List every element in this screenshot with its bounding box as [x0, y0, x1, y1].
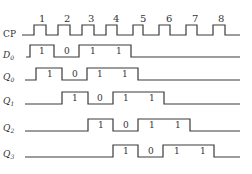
pulse-number-2: 2	[64, 13, 70, 24]
d0-label: D0	[2, 50, 14, 61]
q3-bit-2: 0	[148, 146, 154, 156]
pulse-number-1: 1	[39, 13, 45, 24]
q1-bit-1: 1	[72, 93, 78, 103]
cp-label: CP	[3, 29, 16, 39]
q1-bit-4: 1	[149, 93, 155, 103]
q0-bit-2: 0	[72, 69, 78, 79]
pulse-number-6: 6	[166, 13, 172, 24]
q2-waveform	[25, 119, 240, 131]
q2-bit-1: 1	[98, 120, 104, 130]
q0-bit-1: 1	[47, 69, 53, 79]
pulse-number-5: 5	[140, 13, 146, 24]
d0-bit-4: 1	[116, 46, 122, 56]
q0-waveform	[25, 68, 240, 80]
q2-bit-3: 1	[149, 120, 155, 130]
q1-bit-3: 1	[123, 93, 129, 103]
d0-waveform	[26, 45, 240, 57]
timing-diagram: 1 2 3 4 5 6 7 8 CP D0 1 0 1 1 Q0 1 0 1 1…	[0, 0, 252, 174]
cp-waveform	[22, 25, 240, 35]
q3-waveform	[25, 145, 240, 157]
pulse-number-3: 3	[88, 13, 94, 24]
q0-bit-4: 1	[122, 69, 128, 79]
q2-label: Q2	[3, 123, 14, 134]
pulse-number-8: 8	[218, 13, 224, 24]
q2-bit-4: 1	[175, 120, 181, 130]
pulse-number-4: 4	[113, 13, 119, 24]
q1-waveform	[25, 92, 240, 104]
q3-label: Q3	[3, 149, 14, 160]
d0-bit-3: 1	[90, 46, 96, 56]
q3-bit-4: 1	[200, 146, 206, 156]
pulse-number-7: 7	[192, 13, 198, 24]
q0-label: Q0	[3, 72, 14, 83]
q1-bit-2: 0	[97, 93, 103, 103]
d0-bit-2: 0	[64, 46, 70, 56]
q3-bit-1: 1	[123, 146, 129, 156]
q2-bit-2: 0	[123, 120, 129, 130]
d0-bit-1: 1	[39, 46, 45, 56]
q3-bit-3: 1	[174, 146, 180, 156]
clock-pulse-numbers: 1 2 3 4 5 6 7 8	[39, 13, 224, 24]
q1-label: Q1	[3, 96, 14, 107]
q0-bit-3: 1	[97, 69, 103, 79]
